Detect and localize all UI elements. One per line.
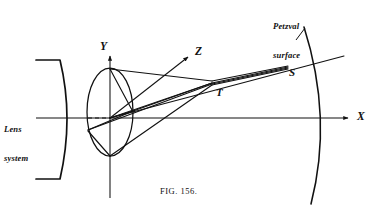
lens-system-label-line2: system — [4, 154, 28, 164]
z-axis-label: Z — [195, 45, 202, 58]
ray-upper-rim-chord — [110, 69, 132, 110]
z-axis-line — [110, 57, 188, 118]
lens-system-group — [36, 60, 67, 179]
lens-system-arc — [36, 60, 67, 179]
x-axis-label: X — [357, 110, 365, 123]
ray-bundle-group — [88, 69, 212, 156]
ray-lower-rim — [110, 85, 212, 156]
lens-system-label: Lens system — [4, 106, 28, 183]
sagittal-focus-label: S — [289, 66, 295, 78]
lens-system-label-line1: Lens — [4, 125, 28, 135]
tangential-focus-label: T — [216, 86, 223, 98]
petzval-surface-arc — [304, 27, 320, 204]
chief-ray-line — [110, 56, 344, 118]
y-axis-label: Y — [100, 40, 107, 53]
petzval-surface-label: Petzval surface — [273, 3, 300, 80]
petzval-surface-label-line2: surface — [273, 51, 300, 61]
ray-lower-rim-chord — [88, 131, 110, 156]
astigmatic-caustic-group — [110, 56, 344, 118]
petzval-surface-label-line1: Petzval — [273, 22, 300, 32]
figure-caption: FIG. 156. — [160, 186, 197, 196]
axes-group — [36, 56, 348, 198]
diagram-canvas — [0, 0, 373, 208]
figure-container: Petzval surface Lens system Y Z X T S FI… — [0, 0, 373, 208]
